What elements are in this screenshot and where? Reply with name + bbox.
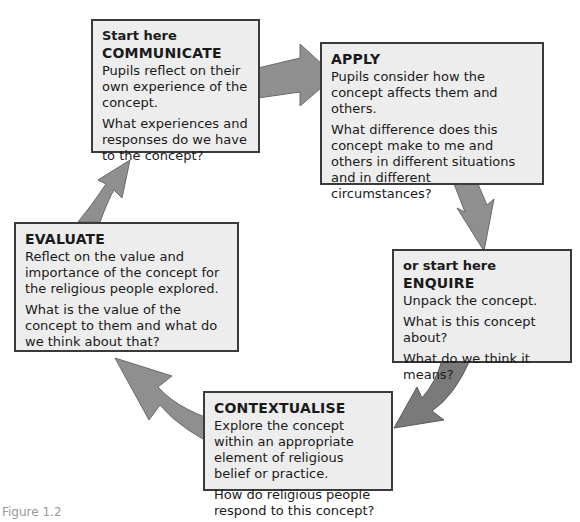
stage-apply: APPLY Pupils consider how the concept af… bbox=[320, 42, 544, 185]
stage-title: CONTEXTUALISE bbox=[214, 399, 383, 417]
stage-description: Explore the concept within an appropriat… bbox=[214, 418, 383, 482]
stage-question: What do we think it means? bbox=[403, 351, 562, 383]
stage-description: Pupils consider how the concept affects … bbox=[331, 69, 534, 117]
stage-title: EVALUATE bbox=[25, 230, 229, 248]
stage-communicate: Start here COMMUNICATE Pupils reflect on… bbox=[91, 19, 260, 153]
stage-description: Pupils reflect on their own experience o… bbox=[102, 63, 250, 111]
stage-description: Reflect on the value and importance of t… bbox=[25, 249, 229, 297]
figure-caption: Figure 1.2 bbox=[2, 505, 62, 519]
stage-question: What experiences and responses do we hav… bbox=[102, 116, 250, 164]
stage-pre-label: Start here bbox=[102, 27, 250, 44]
stage-contextualise: CONTEXTUALISE Explore the concept within… bbox=[203, 391, 393, 491]
stage-question: How do religious people respond to this … bbox=[214, 487, 383, 519]
arrow-evaluate-to-communicate bbox=[78, 160, 130, 222]
stage-enquire: or start here ENQUIRE Unpack the concept… bbox=[392, 249, 572, 363]
stage-title: COMMUNICATE bbox=[102, 44, 250, 62]
stage-title: ENQUIRE bbox=[403, 274, 562, 292]
stage-evaluate: EVALUATE Reflect on the value and import… bbox=[14, 222, 239, 352]
stage-description: Unpack the concept. bbox=[403, 293, 562, 309]
stage-title: APPLY bbox=[331, 50, 534, 68]
stage-pre-label: or start here bbox=[403, 257, 562, 274]
stage-question: What is the value of the concept to them… bbox=[25, 302, 229, 350]
stage-question: What difference does this concept make t… bbox=[331, 122, 534, 202]
stage-question: What is this concept about? bbox=[403, 314, 562, 346]
